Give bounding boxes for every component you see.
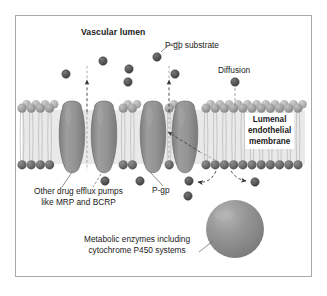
lumenal-membrane-line-3: membrane [248, 137, 291, 148]
other-pumps-line-2: like MRP and BCRP [34, 197, 123, 208]
efflux-pump-bcrp-left [91, 101, 117, 173]
substrate-particle [62, 70, 70, 78]
label-lumenal-endothelial-membrane: Lumenal endothelial membrane [245, 113, 294, 149]
lipid-head-lower [266, 160, 275, 169]
lipid-head-lower [128, 160, 137, 169]
lipid-head-lower [36, 160, 45, 169]
lipid-head-lower [220, 160, 229, 169]
figure-root: Vascular lumen P-gp substrate Diffusion … [0, 0, 327, 296]
lipid-head-upper [211, 104, 220, 113]
lipid-head-upper [201, 104, 210, 113]
substrate-particle [251, 178, 259, 186]
pump-highlight [65, 107, 71, 125]
substrate-particle-labeled [153, 53, 161, 61]
metabolic-line-2: cytochrome P450 systems [84, 245, 190, 256]
leader-other-pumps-a [62, 172, 72, 187]
lipid-head-upper [293, 104, 302, 113]
label-other-drug-efflux-pumps: Other drug efflux pumps like MRP and BCR… [34, 186, 123, 208]
leader-pgp [150, 172, 163, 186]
lipid-head-upper [45, 104, 54, 113]
lipid-head-lower [201, 160, 210, 169]
lipid-head-lower [275, 160, 284, 169]
lumenal-membrane-line-2: endothelial [248, 126, 291, 137]
metabolic-line-1: Metabolic enzymes including [84, 234, 190, 245]
lipid-head-upper [266, 104, 275, 113]
lipid-head-upper [119, 104, 128, 113]
substrate-particle [171, 70, 179, 78]
label-diffusion: Diffusion [218, 66, 250, 76]
substrate-particle [99, 57, 107, 65]
lipid-head-lower [229, 160, 238, 169]
lipid-head-upper [284, 104, 293, 113]
pump-highlight [97, 107, 103, 125]
lipid-head-upper [27, 104, 36, 113]
label-metabolic-enzymes: Metabolic enzymes including cytochrome P… [84, 234, 190, 256]
lipid-head-lower [247, 160, 256, 169]
efflux-curve-right [231, 171, 246, 181]
lipid-head-upper [247, 104, 256, 113]
other-pumps-line-1: Other drug efflux pumps [34, 186, 123, 197]
efflux-curve-left [198, 171, 216, 182]
label-vascular-lumen: Vascular lumen [81, 27, 145, 37]
lipid-head-lower [119, 160, 128, 169]
substrate-particle-diffusion [231, 78, 239, 86]
lipid-head-upper [238, 104, 247, 113]
substrate-particle [184, 192, 192, 200]
leader-metabolic [199, 241, 213, 252]
lipid-head-lower [293, 160, 302, 169]
lipid-head-lower [45, 160, 54, 169]
lipid-head-lower [211, 160, 220, 169]
lipid-head-upper [257, 104, 266, 113]
lumenal-membrane-line-1: Lumenal [248, 115, 291, 126]
lipid-head-lower [284, 160, 293, 169]
substrate-particle [101, 177, 109, 185]
lipid-head-upper [17, 104, 26, 113]
lipid-head-upper [128, 104, 137, 113]
lipid-head-upper [229, 104, 238, 113]
efflux-pump-pgp-a [140, 101, 166, 173]
label-pgp: P-gp [152, 186, 170, 196]
lipid-head-lower [257, 160, 266, 169]
metabolic-enzyme-sphere [206, 200, 264, 258]
lipid-head-lower [17, 160, 26, 169]
pump-highlight [146, 107, 152, 125]
lipid-head-lower [238, 160, 247, 169]
substrate-particle [185, 177, 193, 185]
substrate-particle [124, 78, 132, 86]
label-pgp-substrate: P-gp substrate [165, 41, 219, 51]
substrate-particle [125, 65, 133, 73]
efflux-pump-mrp-left [59, 101, 85, 173]
substrate-particle [136, 177, 144, 185]
lipid-head-lower [27, 160, 36, 169]
pump-highlight [178, 107, 184, 125]
lipid-head-upper [220, 104, 229, 113]
lipid-head-upper [275, 104, 284, 113]
lipid-head-upper [36, 104, 45, 113]
